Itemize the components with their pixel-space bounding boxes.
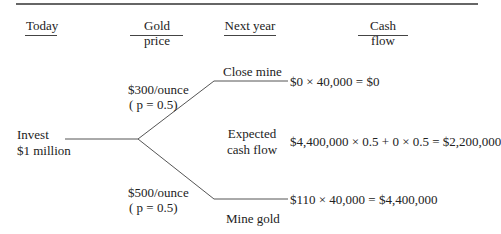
underline-today: [25, 35, 57, 36]
header-cash-flow: Cash flow: [358, 18, 408, 48]
underline-next-year: [224, 35, 276, 36]
header-today: Today: [26, 18, 58, 33]
mine-gold-cash-flow: $110 × 40,000 = $4,400,000: [290, 192, 437, 207]
close-mine-cash-flow: $0 × 40,000 = $0: [290, 74, 379, 89]
root-invest: Invest: [17, 127, 49, 142]
header-gold-price: Gold price: [130, 18, 184, 48]
underline-gold-price: [130, 35, 183, 36]
expected-label-line1: Expected: [226, 126, 278, 141]
root-amount: $1 million: [17, 143, 71, 158]
high-prob-label: ( p = 0.5): [129, 200, 178, 215]
close-mine-label: Close mine: [223, 64, 282, 79]
low-prob-label: ( p = 0.5): [129, 97, 178, 112]
underline-cash-flow: [358, 35, 408, 36]
mine-gold-label: Mine gold: [226, 211, 280, 226]
expected-label-line2: cash flow: [226, 142, 278, 157]
low-price-label: $300/ounce: [128, 82, 189, 97]
high-price-label: $500/ounce: [128, 185, 189, 200]
expected-cash-flow-formula: $4,400,000 × 0.5 + 0 × 0.5 = $2,200,000: [290, 134, 501, 149]
header-next-year: Next year: [224, 18, 276, 33]
